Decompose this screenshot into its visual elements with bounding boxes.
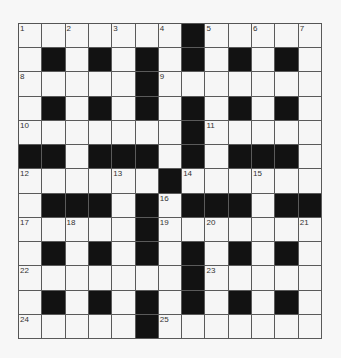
answer-cell[interactable]: [66, 72, 89, 96]
answer-cell[interactable]: [66, 145, 89, 169]
answer-cell[interactable]: [299, 266, 322, 290]
answer-cell[interactable]: [275, 72, 298, 96]
answer-cell[interactable]: [159, 97, 182, 121]
answer-cell[interactable]: 25: [159, 315, 182, 339]
answer-cell[interactable]: [66, 266, 89, 290]
answer-cell[interactable]: [299, 48, 322, 72]
answer-cell[interactable]: [42, 72, 65, 96]
answer-cell[interactable]: [252, 291, 275, 315]
answer-cell[interactable]: 7: [299, 24, 322, 48]
answer-cell[interactable]: [229, 169, 252, 193]
answer-cell[interactable]: 20: [205, 218, 228, 242]
answer-cell[interactable]: [66, 315, 89, 339]
answer-cell[interactable]: [42, 121, 65, 145]
answer-cell[interactable]: [252, 194, 275, 218]
answer-cell[interactable]: [89, 121, 112, 145]
answer-cell[interactable]: [159, 121, 182, 145]
answer-cell[interactable]: [182, 315, 205, 339]
answer-cell[interactable]: 5: [205, 24, 228, 48]
answer-cell[interactable]: [159, 291, 182, 315]
answer-cell[interactable]: [112, 291, 135, 315]
answer-cell[interactable]: 21: [299, 218, 322, 242]
answer-cell[interactable]: [229, 121, 252, 145]
answer-cell[interactable]: [19, 291, 42, 315]
answer-cell[interactable]: [252, 218, 275, 242]
answer-cell[interactable]: [89, 266, 112, 290]
answer-cell[interactable]: [229, 266, 252, 290]
answer-cell[interactable]: [275, 24, 298, 48]
answer-cell[interactable]: [136, 266, 159, 290]
answer-cell[interactable]: [252, 242, 275, 266]
answer-cell[interactable]: [205, 315, 228, 339]
answer-cell[interactable]: 2: [66, 24, 89, 48]
answer-cell[interactable]: [136, 24, 159, 48]
answer-cell[interactable]: [19, 194, 42, 218]
answer-cell[interactable]: [252, 48, 275, 72]
answer-cell[interactable]: [252, 72, 275, 96]
answer-cell[interactable]: 17: [19, 218, 42, 242]
answer-cell[interactable]: [112, 218, 135, 242]
answer-cell[interactable]: [252, 121, 275, 145]
answer-cell[interactable]: [42, 315, 65, 339]
answer-cell[interactable]: [66, 121, 89, 145]
answer-cell[interactable]: [205, 242, 228, 266]
answer-cell[interactable]: [252, 97, 275, 121]
answer-cell[interactable]: [205, 97, 228, 121]
answer-cell[interactable]: 16: [159, 194, 182, 218]
answer-cell[interactable]: 23: [205, 266, 228, 290]
answer-cell[interactable]: 15: [252, 169, 275, 193]
answer-cell[interactable]: [299, 242, 322, 266]
answer-cell[interactable]: [89, 218, 112, 242]
answer-cell[interactable]: 11: [205, 121, 228, 145]
answer-cell[interactable]: [182, 72, 205, 96]
answer-cell[interactable]: [275, 315, 298, 339]
answer-cell[interactable]: 6: [252, 24, 275, 48]
answer-cell[interactable]: [159, 266, 182, 290]
answer-cell[interactable]: [42, 266, 65, 290]
answer-cell[interactable]: 3: [112, 24, 135, 48]
answer-cell[interactable]: [19, 48, 42, 72]
answer-cell[interactable]: [42, 169, 65, 193]
answer-cell[interactable]: [89, 24, 112, 48]
answer-cell[interactable]: 12: [19, 169, 42, 193]
answer-cell[interactable]: [112, 242, 135, 266]
answer-cell[interactable]: [229, 72, 252, 96]
answer-cell[interactable]: [299, 121, 322, 145]
answer-cell[interactable]: [252, 266, 275, 290]
answer-cell[interactable]: [42, 24, 65, 48]
answer-cell[interactable]: [136, 169, 159, 193]
answer-cell[interactable]: [66, 242, 89, 266]
answer-cell[interactable]: [159, 145, 182, 169]
answer-cell[interactable]: [112, 121, 135, 145]
answer-cell[interactable]: 8: [19, 72, 42, 96]
answer-cell[interactable]: [205, 169, 228, 193]
answer-cell[interactable]: 22: [19, 266, 42, 290]
answer-cell[interactable]: [299, 291, 322, 315]
answer-cell[interactable]: [136, 121, 159, 145]
answer-cell[interactable]: [66, 48, 89, 72]
answer-cell[interactable]: [112, 266, 135, 290]
answer-cell[interactable]: [112, 48, 135, 72]
answer-cell[interactable]: 18: [66, 218, 89, 242]
answer-cell[interactable]: [159, 48, 182, 72]
answer-cell[interactable]: [89, 72, 112, 96]
answer-cell[interactable]: [112, 194, 135, 218]
answer-cell[interactable]: [299, 169, 322, 193]
answer-cell[interactable]: [66, 169, 89, 193]
answer-cell[interactable]: [252, 315, 275, 339]
answer-cell[interactable]: [229, 218, 252, 242]
answer-cell[interactable]: [89, 169, 112, 193]
answer-cell[interactable]: [19, 242, 42, 266]
answer-cell[interactable]: [112, 97, 135, 121]
answer-cell[interactable]: 13: [112, 169, 135, 193]
answer-cell[interactable]: [112, 315, 135, 339]
answer-cell[interactable]: 1: [19, 24, 42, 48]
answer-cell[interactable]: [275, 266, 298, 290]
answer-cell[interactable]: [66, 97, 89, 121]
answer-cell[interactable]: [229, 24, 252, 48]
answer-cell[interactable]: [205, 291, 228, 315]
answer-cell[interactable]: [205, 48, 228, 72]
answer-cell[interactable]: [299, 145, 322, 169]
answer-cell[interactable]: 10: [19, 121, 42, 145]
answer-cell[interactable]: [182, 218, 205, 242]
